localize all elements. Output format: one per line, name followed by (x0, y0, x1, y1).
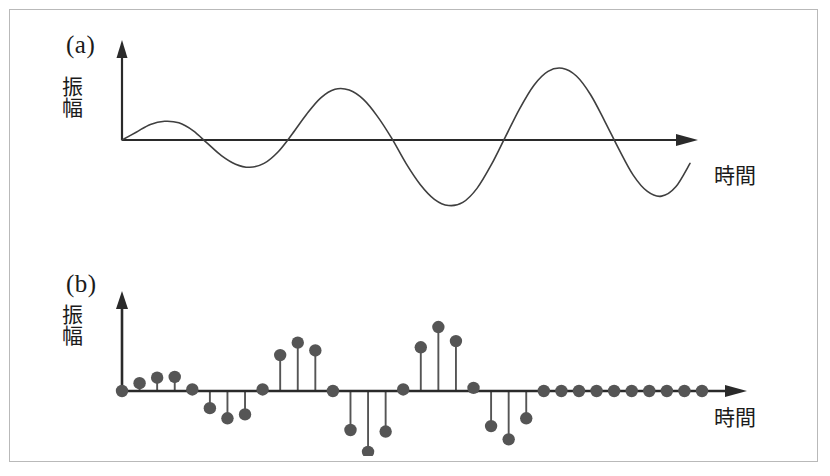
stem-marker (116, 385, 128, 397)
stem-marker (626, 385, 638, 397)
stem-marker (643, 385, 655, 397)
stem-marker (678, 385, 690, 397)
panel-b-sample-markers (116, 321, 708, 456)
stem-marker (274, 349, 286, 361)
stem-marker (608, 385, 620, 397)
stem-marker (133, 377, 145, 389)
stem-marker (239, 408, 251, 420)
stem-marker (344, 424, 356, 436)
stem-marker (379, 425, 391, 437)
panel-a-continuous-waveform: (a) 振幅 時間 (14, 14, 809, 232)
stem-marker (204, 402, 216, 414)
stem-marker (397, 383, 409, 395)
stem-marker (573, 385, 585, 397)
panel-b-axes (116, 291, 747, 397)
stem-marker (309, 344, 321, 356)
panel-a-plot-area (14, 14, 809, 232)
stem-marker (221, 412, 233, 424)
stem-marker (485, 420, 497, 432)
panel-b-y-axis-arrowhead (116, 291, 128, 309)
panel-a-waveform-curve (122, 68, 690, 206)
panel-a-x-axis-arrowhead (676, 134, 698, 146)
stem-marker (450, 335, 462, 347)
stem-marker (415, 341, 427, 353)
panel-a-axes (117, 40, 699, 146)
stem-marker (432, 321, 444, 333)
stem-marker (362, 446, 374, 456)
stem-marker (151, 372, 163, 384)
stem-marker (555, 385, 567, 397)
figure-root: (a) 振幅 時間 (b) 振幅 時間 (0, 0, 830, 476)
panel-b-plot-area (14, 246, 809, 456)
stem-marker (538, 385, 550, 397)
stem-marker (520, 412, 532, 424)
stem-marker (661, 385, 673, 397)
stem-marker (467, 382, 479, 394)
stem-marker (502, 433, 514, 445)
stem-marker (186, 383, 198, 395)
stem-marker (292, 336, 304, 348)
stem-marker (256, 383, 268, 395)
panel-a-y-axis-arrowhead (117, 40, 128, 58)
stem-marker (169, 371, 181, 383)
stem-marker (696, 385, 708, 397)
stem-marker (327, 385, 339, 397)
panel-b-sampled-waveform: (b) 振幅 時間 (14, 246, 809, 456)
stem-marker (590, 385, 602, 397)
panel-b-x-axis-arrowhead (725, 385, 747, 397)
